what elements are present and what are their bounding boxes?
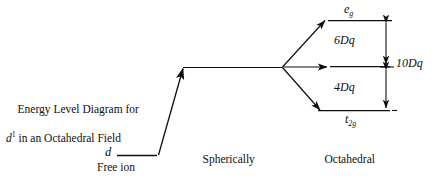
split-arrow-to-t2g (283, 68, 321, 111)
caption-line-2: d1 in an Octahedral Field (6, 130, 139, 145)
split-arrow-to-eg (283, 21, 326, 68)
stage-label-octahedral: Octahedral field VOh (296, 138, 392, 182)
octahedral-line-2: field VOh (330, 181, 370, 182)
octahedral-field-text: field (330, 181, 354, 182)
free-ion-orbital-label: d (105, 145, 111, 160)
stage-label-spherical: Spherically symmetrical repulsion (191, 138, 259, 182)
energy-gap-label-4dq: 4Dq (334, 80, 355, 95)
spherical-line-2: symmetrical (203, 181, 260, 182)
spherical-line-1: Spherically (203, 153, 255, 165)
caption-line-1: Energy Level Diagram for (18, 103, 139, 115)
eg-subscript: g (349, 9, 353, 18)
level-label-t2g: t2g (345, 112, 356, 129)
free-ion-to-spherical-arrow (159, 69, 184, 156)
level-label-eg: eg (344, 2, 353, 19)
energy-level-diagram-figure: Energy Level Diagram for d1 in an Octahe… (0, 0, 432, 182)
t2g-subscript: 2g (348, 119, 356, 128)
caption-line-2-rest: in an Octahedral Field (16, 132, 121, 144)
energy-gap-label-10dq: 10Dq (396, 56, 423, 71)
octahedral-line-1: Octahedral (325, 153, 375, 165)
octahedral-V-symbol: V (354, 181, 361, 182)
stage-label-free-ion: Free ion (97, 160, 135, 174)
energy-gap-label-6dq: 6Dq (334, 33, 355, 48)
